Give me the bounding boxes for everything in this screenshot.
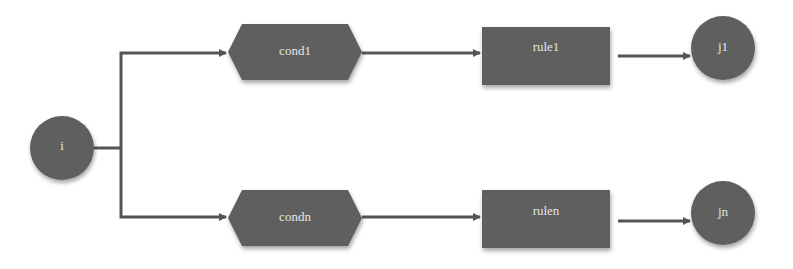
edge-i-cond1 bbox=[121, 53, 226, 148]
node-condn-label: condn bbox=[245, 210, 345, 223]
node-j1-label: j1 bbox=[703, 40, 743, 53]
node-rulen-label: rulen bbox=[496, 204, 596, 217]
flowchart-canvas bbox=[0, 0, 793, 269]
edge-i-condn bbox=[121, 148, 226, 217]
node-rule1-label: rule1 bbox=[496, 40, 596, 53]
node-cond1-label: cond1 bbox=[245, 44, 345, 57]
node-rulen[interactable] bbox=[482, 190, 610, 248]
node-jn-label: jn bbox=[703, 205, 743, 218]
node-i-label: i bbox=[42, 139, 82, 152]
node-rule1[interactable] bbox=[482, 27, 610, 85]
